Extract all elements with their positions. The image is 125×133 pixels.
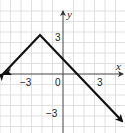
tick-x-3: 3: [97, 77, 103, 88]
tick-y-neg3: −3: [46, 108, 58, 119]
tick-origin: 0: [55, 77, 61, 88]
x-axis-label: x: [115, 60, 121, 72]
tick-x-neg3: −3: [20, 77, 32, 88]
tick-y-3: 3: [55, 32, 61, 43]
graph: x y −3 0 3 3 −3: [0, 0, 125, 133]
y-axis-label: y: [66, 8, 72, 20]
